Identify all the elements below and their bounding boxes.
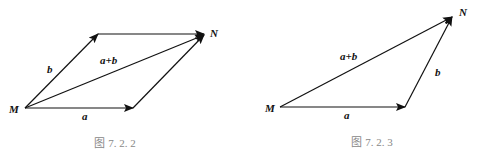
vector-b-label: b (47, 63, 53, 75)
point-n-label: N (458, 6, 468, 18)
figure-caption: 图 7. 2. 3 (351, 136, 393, 148)
vector-a-label: a (82, 110, 88, 122)
point-n-label: N (209, 27, 219, 39)
vector-b (25, 34, 98, 108)
vector-b-label: b (435, 66, 441, 78)
vector-b-translated (133, 35, 204, 108)
figure-triangle: M N a+b b a 图 7. 2. 3 (264, 6, 468, 148)
vector-a-label: a (344, 109, 350, 121)
vector-sum (280, 17, 452, 107)
vector-sum-label: a+b (100, 54, 118, 66)
vector-addition-diagrams: M N b a+b a 图 7. 2. 2 M N a+b b a 图 7. 2… (0, 0, 478, 153)
vector-sum-label: a+b (340, 50, 358, 62)
figure-caption: 图 7. 2. 2 (94, 137, 135, 149)
figure-parallelogram: M N b a+b a 图 7. 2. 2 (8, 27, 219, 149)
vector-b (405, 17, 452, 107)
point-m-label: M (8, 103, 20, 115)
point-m-label: M (264, 102, 276, 114)
